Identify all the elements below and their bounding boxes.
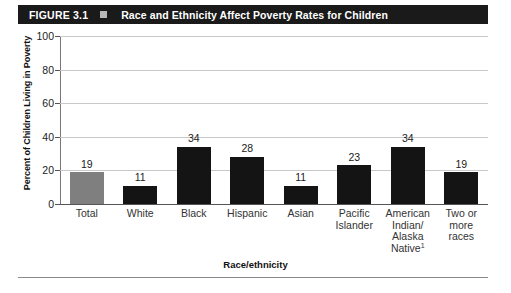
- bar[interactable]: [177, 147, 211, 204]
- bar[interactable]: [123, 186, 157, 204]
- bar-slot: 19: [60, 28, 114, 204]
- y-axis-title: Percent of Children Living in Poverty: [22, 23, 32, 203]
- x-tick-labels-group: TotalWhiteBlackHispanicAsianPacificIslan…: [60, 208, 488, 266]
- y-tick-label-40: 40: [20, 132, 54, 143]
- x-tick-label-line: Black: [167, 208, 221, 220]
- bar-value-label: 34: [402, 133, 414, 144]
- y-tick-label-20: 20: [20, 165, 54, 176]
- y-tick-label-60: 60: [20, 98, 54, 109]
- bar-slot: 11: [274, 28, 328, 204]
- bar[interactable]: [70, 172, 104, 204]
- x-tick-label-line: Two or: [435, 208, 489, 220]
- x-tick-label-line: Total: [60, 208, 114, 220]
- y-tick-label-0: 0: [20, 199, 54, 210]
- gridline-0: [60, 204, 488, 205]
- square-marker-icon: [100, 11, 107, 18]
- bar-value-label: 28: [241, 143, 253, 154]
- bar[interactable]: [444, 172, 478, 204]
- bar-slot: 23: [328, 28, 382, 204]
- figure-title-text: Race and Ethnicity Affect Poverty Rates …: [121, 9, 388, 21]
- figure-title-bar: FIGURE 3.1 Race and Ethnicity Affect Pov…: [18, 5, 488, 24]
- footnote-marker: 1: [421, 241, 425, 248]
- bar-slot: 19: [435, 28, 489, 204]
- x-tick-label-line: Pacific: [328, 208, 382, 220]
- x-tick-label-line: Hispanic: [221, 208, 275, 220]
- y-tick-label-80: 80: [20, 65, 54, 76]
- figure-container: FIGURE 3.1 Race and Ethnicity Affect Pov…: [0, 0, 511, 293]
- x-tick-label-line: races: [435, 231, 489, 243]
- x-tick-label: Asian: [274, 208, 328, 220]
- bar[interactable]: [391, 147, 425, 204]
- x-tick-label-line: White: [114, 208, 168, 220]
- x-tick-label: Total: [60, 208, 114, 220]
- bar-slot: 11: [114, 28, 168, 204]
- x-tick-label: Black: [167, 208, 221, 220]
- y-tick-label-100: 100: [20, 31, 54, 42]
- x-tick-label-line: Asian: [274, 208, 328, 220]
- bar-value-label: 34: [188, 133, 200, 144]
- x-tick-label: AmericanIndian/AlaskaNative1: [381, 208, 435, 254]
- x-tick-label: White: [114, 208, 168, 220]
- y-tick-mark-0: [55, 204, 60, 205]
- bar[interactable]: [337, 165, 371, 204]
- bar[interactable]: [230, 157, 264, 204]
- bar-value-label: 23: [348, 152, 360, 163]
- bar[interactable]: [284, 186, 318, 204]
- bar-value-label: 11: [135, 172, 146, 183]
- x-tick-label: PacificIslander: [328, 208, 382, 231]
- bar-slot: 28: [221, 28, 275, 204]
- x-tick-label-line: Alaska: [381, 231, 435, 243]
- bar-value-label: 11: [295, 172, 306, 183]
- x-tick-label-line: Islander: [328, 220, 382, 232]
- bar-value-label: 19: [455, 159, 467, 170]
- x-tick-label: Two ormoreraces: [435, 208, 489, 243]
- x-tick-label: Hispanic: [221, 208, 275, 220]
- x-axis-title: Race/ethnicity: [0, 259, 511, 270]
- bars-group: 1911342811233419: [60, 28, 488, 204]
- figure-bottom-rule: [18, 277, 488, 278]
- plot-area: Percent of Children Living in Poverty 02…: [0, 28, 511, 268]
- bar-value-label: 19: [81, 159, 93, 170]
- figure-number-label: FIGURE 3.1: [29, 9, 88, 21]
- bar-slot: 34: [167, 28, 221, 204]
- bar-slot: 34: [381, 28, 435, 204]
- x-tick-label-line: Native1: [381, 243, 435, 255]
- x-tick-label-line: American: [381, 208, 435, 220]
